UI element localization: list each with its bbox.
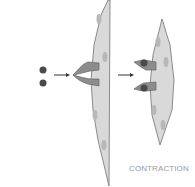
contraction-label: CONTRACTION — [129, 164, 189, 173]
nucleus — [93, 110, 98, 120]
nucleus — [164, 57, 169, 67]
nucleus — [161, 120, 166, 130]
nucleus — [152, 105, 157, 115]
left-cell — [91, 0, 110, 186]
diagram-canvas — [0, 0, 195, 187]
ligand-dot — [40, 80, 47, 87]
nucleus — [102, 140, 107, 150]
ligand-dot — [40, 67, 47, 74]
arrow-icon — [54, 73, 70, 77]
nucleus — [97, 14, 102, 24]
arrow-icon — [118, 73, 134, 77]
nucleus — [156, 37, 161, 47]
nucleus — [103, 52, 108, 62]
